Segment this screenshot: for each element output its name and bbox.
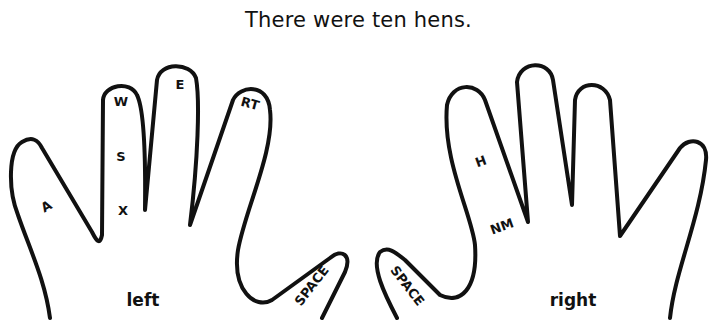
key-label-w: W (114, 94, 128, 109)
key-label-s: S (116, 149, 125, 164)
key-label-a: A (38, 197, 54, 215)
hand-label-left: left (127, 290, 160, 310)
key-label-e: E (176, 77, 185, 92)
hand-label-right: right (550, 290, 597, 310)
key-label-nm: NM (488, 215, 516, 237)
key-label-rt: RT (239, 94, 261, 113)
left-hand-outline (11, 66, 347, 318)
typing-hands-diagram: A W S X E RT SPACE left H NM SPACE right (0, 0, 717, 321)
key-label-x: X (118, 203, 128, 218)
right-hand-outline (377, 65, 706, 318)
key-label-space-right: SPACE (387, 263, 427, 309)
key-label-h: H (473, 153, 488, 171)
